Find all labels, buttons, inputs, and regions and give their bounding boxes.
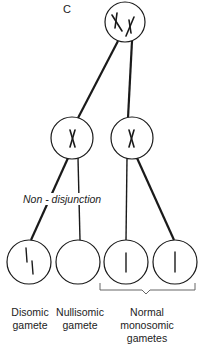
label-line: Disomic [2,306,58,319]
label-line: Normal [112,306,182,319]
meiosis-nondisjunction-diagram [0,0,199,344]
label-line: gametes [112,332,182,344]
label-line: gamete [52,319,108,332]
label-line: Nullisomic [52,306,108,319]
meiosis1-cell-left [51,117,93,159]
disomic-gamete-label: Disomic gamete [2,306,58,332]
panel-label: C [63,3,71,15]
gamete-cell-disomic [7,240,51,284]
gamete-cell-normal-1 [104,240,148,284]
label-line: gamete [2,319,58,332]
meiosis1-cell-right [111,117,153,159]
non-disjunction-label: Non - disjunction [22,193,102,205]
nullisomic-gamete-label: Nullisomic gamete [52,306,108,332]
gamete-cell-nullisomic [56,240,100,284]
gamete-cell-normal-2 [153,240,197,284]
label-line: monosomic [112,319,182,332]
parent-cell [105,2,145,42]
normal-gametes-bracket [100,283,195,294]
normal-gametes-label: Normal monosomic gametes [112,306,182,344]
